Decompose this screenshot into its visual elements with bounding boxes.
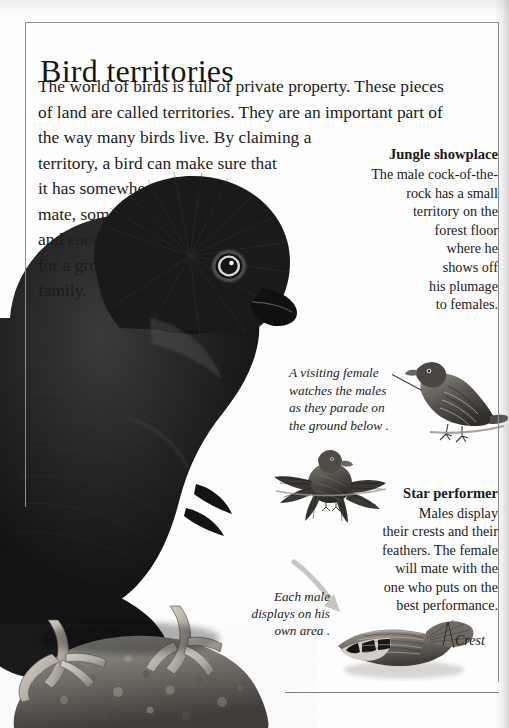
jungle-showplace-line: The male cock-of-the- [330,165,498,184]
visiting-female-line: as they parade on [289,399,414,417]
jungle-showplace-line: territory on the [330,202,498,221]
intro-line: of land are called territories. They are… [38,100,368,126]
crest-label: Crest [455,633,485,649]
intro-line: it has somewhere to attract a [38,176,368,202]
intro-line: and enough space [38,227,368,253]
jungle-showplace-line: to females. [330,295,498,314]
jungle-showplace-heading: Jungle showplace [330,145,498,164]
star-performer-line: best performance. [350,596,498,614]
bird-feet [19,606,222,702]
star-performer-line: their crests and their [350,522,498,540]
star-performer-caption: Star performer Males display their crest… [350,484,498,614]
frame-rule-bottom [285,692,499,693]
intro-line: territory, a bird can make sure that [38,151,368,177]
page-top-shading [0,0,509,18]
book-page: Bird territories The world of birds is f… [0,0,509,728]
star-performer-line: feathers. The female [350,541,498,559]
jungle-showplace-caption: Jungle showplace The male cock-of-the- r… [330,145,498,314]
star-performer-line: will mate with the [350,559,498,577]
frame-rule-top [25,22,499,23]
visiting-female-caption: A visiting female watches the males as t… [289,364,414,434]
frame-rule-right [498,22,499,682]
intro-line: for a growing [38,253,368,279]
intro-line: The world of birds is full of private pr… [38,74,368,100]
wing-tip-feathers [184,484,232,536]
star-performer-line: one who puts on the [350,578,498,596]
each-male-line: own area . [226,622,330,639]
each-male-caption: Each male displays on his own area . [226,588,330,640]
intro-line: mate, somewhere to nest, [38,202,368,228]
jungle-showplace-line: forest floor [330,221,498,240]
jungle-showplace-line: rock has a small [330,184,498,203]
intro-paragraph: The world of birds is full of private pr… [38,74,368,304]
intro-line: the way many birds live. By claiming a [38,125,368,151]
intro-line: family. [38,278,368,304]
star-performer-line: Males display [350,504,498,522]
perch-rock [0,634,318,728]
jungle-showplace-line: shows off [330,258,498,277]
visiting-female-line: A visiting female [289,364,414,382]
each-male-line: displays on his [226,605,330,622]
jungle-showplace-line: where he [330,239,498,258]
star-performer-heading: Star performer [350,484,498,503]
each-male-line: Each male [226,588,330,605]
frame-rule-left [25,22,26,507]
visiting-female-line: the ground below . [289,417,414,435]
visiting-female-line: watches the males [289,382,414,400]
jungle-showplace-line: his plumage [330,277,498,296]
